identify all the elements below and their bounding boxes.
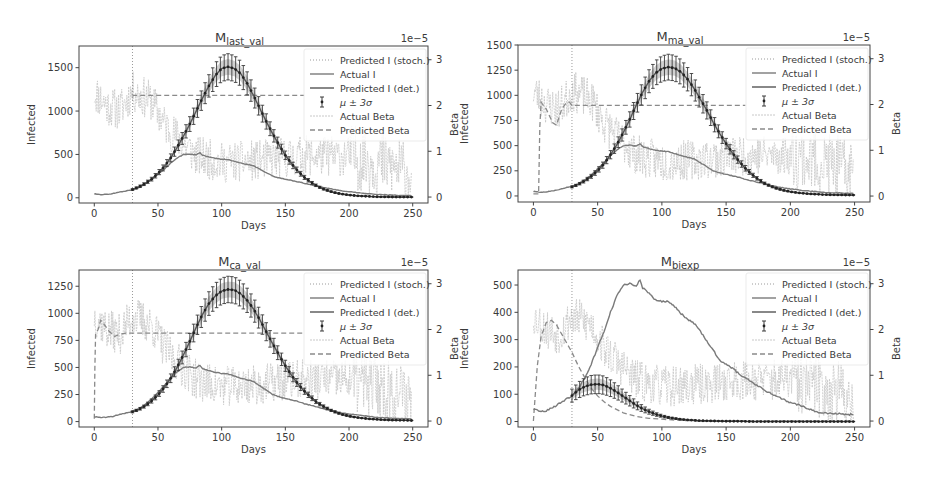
chart-panel-ca_val: Predicted I (stoch.)Actual IPredicted I … — [26, 254, 460, 455]
y-tick-label: 750 — [493, 115, 512, 126]
y-tick-label: 1250 — [487, 65, 512, 76]
predicted-beta-line — [133, 95, 305, 96]
y-tick-label: 100 — [493, 389, 512, 400]
y2-tick-label: 2 — [878, 324, 884, 335]
y-tick-label: 300 — [493, 334, 512, 345]
chart-title: Mbiexp — [661, 254, 700, 271]
svg-text:Predicted I (det.): Predicted I (det.) — [782, 82, 861, 93]
y2-axis-label: Beta — [891, 112, 902, 135]
svg-text:Predicted I (stoch.): Predicted I (stoch.) — [782, 54, 872, 65]
y-tick-label: 1500 — [487, 40, 512, 51]
x-axis-label: Days — [241, 444, 266, 455]
x-tick-label: 150 — [717, 207, 736, 218]
x-tick-label: 250 — [403, 432, 422, 443]
y2-tick-label: 0 — [436, 192, 442, 203]
svg-text:Predicted Beta: Predicted Beta — [782, 124, 852, 135]
y2-offset-text: 1e−5 — [401, 257, 428, 268]
x-tick-label: 50 — [152, 208, 165, 219]
y2-tick-label: 3 — [436, 278, 442, 289]
chart-title: Mca_val — [218, 254, 261, 272]
chart-panel-biexp: Predicted I (stoch.)Actual IPredicted I … — [459, 254, 902, 455]
x-tick-label: 100 — [652, 432, 671, 443]
legend: Predicted I (stoch.)Actual IPredicted I … — [304, 49, 430, 141]
y-tick-label: 500 — [493, 140, 512, 151]
y-tick-label: 500 — [54, 362, 73, 373]
y-tick-label: 500 — [54, 149, 73, 160]
y-tick-label: 400 — [493, 307, 512, 318]
y2-tick-label: 3 — [878, 53, 884, 64]
figure: Predicted I (stoch.)Actual IPredicted I … — [0, 0, 931, 486]
x-tick-label: 100 — [652, 207, 671, 218]
x-tick-label: 200 — [339, 432, 358, 443]
svg-text:Predicted I (det.): Predicted I (det.) — [340, 83, 419, 94]
chart-panel-ma_val: Predicted I (stoch.)Actual IPredicted I … — [459, 29, 902, 230]
y2-tick-label: 0 — [878, 191, 884, 202]
y2-tick-label: 3 — [878, 278, 884, 289]
svg-text:Actual Beta: Actual Beta — [782, 110, 837, 121]
y2-tick-label: 2 — [878, 99, 884, 110]
y2-tick-label: 1 — [878, 145, 884, 156]
x-tick-label: 0 — [91, 432, 97, 443]
x-axis-label: Days — [682, 219, 707, 230]
y2-offset-text: 1e−5 — [843, 257, 870, 268]
y2-tick-label: 1 — [436, 370, 442, 381]
figure-svg: Predicted I (stoch.)Actual IPredicted I … — [0, 0, 931, 486]
x-tick-label: 200 — [339, 208, 358, 219]
svg-text:Predicted I (stoch.): Predicted I (stoch.) — [340, 55, 430, 66]
y-tick-label: 1000 — [48, 308, 73, 319]
y2-axis-label: Beta — [891, 337, 902, 360]
svg-text:Predicted Beta: Predicted Beta — [340, 349, 410, 360]
y-tick-label: 1500 — [48, 62, 73, 73]
y-tick-label: 1000 — [48, 106, 73, 117]
svg-text:μ ± 3σ: μ ± 3σ — [339, 321, 373, 332]
x-tick-label: 50 — [591, 432, 604, 443]
x-tick-label: 100 — [212, 432, 231, 443]
x-tick-label: 150 — [276, 208, 295, 219]
x-tick-label: 100 — [212, 208, 231, 219]
x-tick-label: 0 — [530, 432, 536, 443]
y2-tick-label: 0 — [878, 416, 884, 427]
y-tick-label: 500 — [493, 280, 512, 291]
svg-text:Predicted I (det.): Predicted I (det.) — [340, 307, 419, 318]
y-tick-label: 0 — [506, 416, 512, 427]
y-axis-label: Infected — [459, 103, 470, 144]
x-axis-label: Days — [682, 444, 707, 455]
svg-text:Actual Beta: Actual Beta — [340, 111, 395, 122]
x-axis-label: Days — [241, 220, 266, 231]
chart-panel-last_val: Predicted I (stoch.)Actual IPredicted I … — [26, 30, 460, 231]
y-tick-label: 0 — [67, 416, 73, 427]
y-tick-label: 0 — [67, 192, 73, 203]
legend: Predicted I (stoch.)Actual IPredicted I … — [304, 273, 430, 365]
svg-text:Actual I: Actual I — [782, 293, 818, 304]
y-tick-label: 750 — [54, 335, 73, 346]
x-tick-label: 0 — [91, 208, 97, 219]
x-tick-label: 0 — [530, 207, 536, 218]
y2-tick-label: 2 — [436, 100, 442, 111]
svg-text:Actual I: Actual I — [340, 293, 376, 304]
y2-offset-text: 1e−5 — [843, 32, 870, 43]
svg-text:Actual I: Actual I — [782, 68, 818, 79]
y-axis-label: Infected — [26, 328, 37, 369]
x-tick-label: 250 — [845, 432, 864, 443]
y-axis-label: Infected — [459, 328, 470, 369]
svg-text:Predicted I (det.): Predicted I (det.) — [782, 307, 861, 318]
legend: Predicted I (stoch.)Actual IPredicted I … — [746, 48, 872, 140]
svg-text:Actual Beta: Actual Beta — [340, 335, 395, 346]
y-tick-label: 250 — [493, 165, 512, 176]
y-tick-label: 250 — [54, 389, 73, 400]
x-tick-label: 150 — [276, 432, 295, 443]
y2-tick-label: 2 — [436, 324, 442, 335]
svg-text:Predicted Beta: Predicted Beta — [782, 349, 852, 360]
y2-tick-label: 0 — [436, 416, 442, 427]
y2-offset-text: 1e−5 — [401, 33, 428, 44]
y-tick-label: 0 — [506, 190, 512, 201]
x-tick-label: 250 — [403, 208, 422, 219]
y2-tick-label: 1 — [436, 146, 442, 157]
svg-text:μ ± 3σ: μ ± 3σ — [339, 97, 373, 108]
svg-text:Predicted I (stoch.): Predicted I (stoch.) — [340, 279, 430, 290]
x-tick-label: 150 — [717, 432, 736, 443]
svg-text:μ ± 3σ: μ ± 3σ — [781, 96, 815, 107]
chart-title: Mlast_val — [215, 30, 264, 48]
svg-text:Actual I: Actual I — [340, 69, 376, 80]
x-tick-label: 250 — [845, 207, 864, 218]
